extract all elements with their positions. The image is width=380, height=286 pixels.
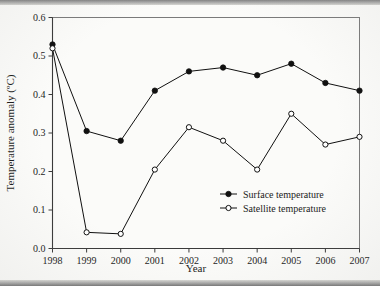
data-point-satellite-2005 [289,111,294,116]
data-point-satellite-2004 [255,167,260,172]
x-tick-label: 2007 [350,255,370,266]
data-point-surface-2001 [152,88,157,93]
x-tick-label: 2005 [281,255,301,266]
x-axis-title: Year [186,262,207,274]
data-point-surface-2002 [186,69,191,74]
legend-label-1: Satellite temperature [243,203,327,214]
data-point-surface-2006 [323,80,328,85]
data-point-satellite-2001 [152,167,157,172]
legend-label-0: Surface temperature [243,189,324,200]
x-tick-label: 2003 [213,255,233,266]
y-tick-label: 0.0 [33,243,46,254]
data-point-surface-2007 [357,88,362,93]
data-point-satellite-2007 [357,134,362,139]
chart-legend: Surface temperatureSatellite temperature [220,189,327,214]
y-tick-label: 0.3 [33,127,46,138]
data-point-satellite-2003 [220,138,225,143]
data-point-satellite-2006 [323,142,328,147]
data-point-surface-2003 [220,65,225,70]
data-point-surface-2000 [118,138,123,143]
data-point-surface-2005 [289,61,294,66]
y-tick-label: 0.5 [33,50,46,61]
legend-marker-open-circle-icon [226,205,231,210]
series-line-surface [53,44,360,140]
x-tick-label: 2004 [247,255,267,266]
data-point-satellite-1999 [84,230,89,235]
temperature-anomaly-line-chart: 0.00.10.20.30.40.50.6 199819992000200120… [0,0,380,286]
y-tick-label: 0.6 [33,12,46,23]
data-point-satellite-2000 [118,231,123,236]
data-point-surface-2004 [254,73,259,78]
plot-frame [53,18,360,249]
x-tick-label: 2001 [145,255,165,266]
x-axis-ticks [53,249,360,253]
data-point-satellite-2002 [186,125,191,130]
x-tick-label: 2000 [111,255,131,266]
x-tick-label: 2006 [315,255,335,266]
legend-marker-filled-circle-icon [226,191,231,196]
x-tick-label: 1998 [43,255,63,266]
chart-page: 0.00.10.20.30.40.50.6 199819992000200120… [0,0,380,286]
y-axis-tick-labels: 0.00.10.20.30.40.50.6 [33,12,46,254]
y-tick-label: 0.2 [33,166,46,177]
y-tick-label: 0.4 [33,89,46,100]
data-point-satellite-1998 [50,46,55,51]
data-point-surface-1999 [84,128,89,133]
x-tick-label: 1999 [77,255,97,266]
y-axis-title: Temperature anomaly (ºC) [4,74,17,191]
y-axis-ticks [49,18,53,249]
y-tick-label: 0.1 [33,204,46,215]
